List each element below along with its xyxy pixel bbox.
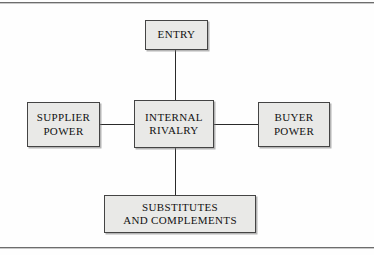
node-substitutes-and-complements[interactable]: SUBSTITUTES AND COMPLEMENTS bbox=[104, 195, 256, 233]
node-internal-rivalry-label: INTERNAL RIVALRY bbox=[135, 111, 213, 138]
node-buyer-power[interactable]: BUYER POWER bbox=[258, 102, 330, 147]
node-supplier-power[interactable]: SUPPLIER POWER bbox=[27, 102, 100, 147]
node-buyer-power-label: BUYER POWER bbox=[259, 111, 329, 138]
connector-internal-rivalry-to-substitutes bbox=[175, 148, 176, 195]
connector-supplier-power-to-internal-rivalry bbox=[100, 124, 134, 125]
connector-internal-rivalry-to-buyer-power bbox=[214, 124, 258, 125]
page-rule-bottom bbox=[0, 247, 374, 248]
node-substitutes-and-complements-label: SUBSTITUTES AND COMPLEMENTS bbox=[105, 201, 255, 228]
node-entry[interactable]: ENTRY bbox=[145, 20, 208, 50]
node-supplier-power-label: SUPPLIER POWER bbox=[28, 111, 99, 138]
connector-entry-to-internal-rivalry bbox=[175, 50, 176, 100]
diagram-canvas: ENTRY SUPPLIER POWER INTERNAL RIVALRY BU… bbox=[0, 0, 374, 255]
node-entry-label: ENTRY bbox=[146, 28, 207, 41]
page-rule-top bbox=[0, 2, 374, 3]
node-internal-rivalry[interactable]: INTERNAL RIVALRY bbox=[134, 100, 214, 148]
